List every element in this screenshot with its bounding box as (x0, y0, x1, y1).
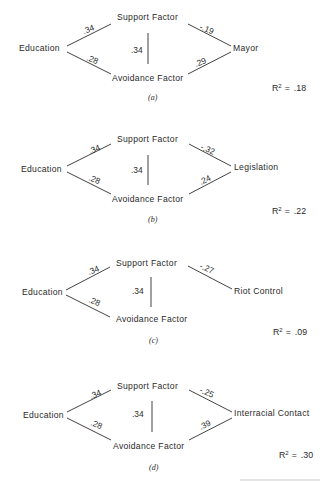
path-diagram-figure: Education Support Factor Avoidance Facto… (0, 0, 328, 482)
node-avoidance-factor: Avoidance Factor (112, 194, 184, 204)
node-avoidance-factor: Avoidance Factor (112, 73, 184, 83)
coef-edu-support: .34 (86, 263, 101, 277)
r-squared: R2=.18 (272, 83, 306, 94)
coef-edu-avoid: .28 (89, 418, 104, 432)
cropped-text-fragment (240, 479, 320, 481)
node-education: Education (22, 287, 63, 297)
coef-edu-avoid: .28 (85, 53, 100, 67)
coef-edu-support: .34 (88, 387, 103, 401)
node-support-factor: Support Factor (117, 381, 178, 391)
edge-avoidance-outcome (189, 172, 231, 194)
panel-c: Education Support Factor Avoidance Facto… (22, 258, 307, 345)
coef-support-avoid: .34 (132, 409, 144, 419)
coef-edu-avoid: .28 (87, 173, 102, 187)
node-outcome: Mayor (233, 43, 258, 53)
coef-support-outcome: -.32 (199, 142, 217, 157)
r-squared: R2=.09 (273, 327, 307, 338)
panel-caption: (d) (149, 463, 159, 472)
panel-caption: (a) (148, 93, 158, 102)
edge-avoidance-outcome (189, 418, 232, 440)
coef-support-avoid: .34 (132, 286, 144, 296)
node-support-factor: Support Factor (117, 134, 178, 144)
node-avoidance-factor: Avoidance Factor (113, 441, 185, 451)
node-avoidance-factor: Avoidance Factor (116, 314, 188, 324)
node-outcome: Interracial Contact (234, 408, 310, 418)
panel-d: Education Support Factor Avoidance Facto… (23, 381, 313, 472)
node-education: Education (23, 410, 64, 420)
panel-a: Education Support Factor Avoidance Facto… (19, 12, 306, 102)
coef-avoid-outcome: .39 (197, 418, 212, 432)
edge-education-avoidance (67, 418, 111, 440)
node-outcome: Legislation (234, 162, 278, 172)
panel-caption: (b) (148, 215, 158, 224)
panel-caption: (c) (149, 336, 158, 345)
node-education: Education (21, 164, 62, 174)
coef-avoid-outcome: .29 (193, 55, 208, 69)
r-squared: R2=.30 (279, 450, 313, 461)
coef-support-outcome: -.27 (198, 261, 216, 276)
r-squared: R2=.22 (272, 206, 306, 217)
coef-edu-support: .34 (87, 142, 102, 156)
panel-b: Education Support Factor Avoidance Facto… (21, 134, 306, 224)
node-support-factor: Support Factor (116, 258, 177, 268)
coef-avoid-outcome: .24 (197, 173, 212, 187)
coef-support-outcome: -.19 (198, 22, 215, 37)
coef-support-avoid: .34 (131, 165, 143, 175)
coef-support-avoid: .34 (131, 45, 143, 55)
coef-support-outcome: -.25 (198, 385, 216, 400)
node-outcome: Riot Control (234, 286, 283, 296)
node-education: Education (19, 43, 60, 53)
edge-education-avoidance (66, 295, 110, 317)
coef-edu-support: .34 (81, 22, 96, 35)
node-support-factor: Support Factor (117, 12, 178, 22)
